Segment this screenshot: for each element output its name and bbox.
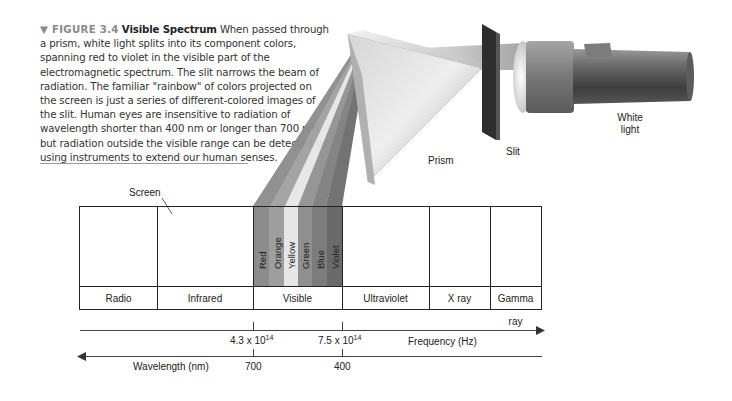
wavelength-tick-label: 700 — [245, 361, 262, 372]
stripe-yellow: Yellow — [284, 207, 298, 286]
frequency-tick — [253, 322, 254, 330]
band-gamma-ray: Gamma ray — [490, 287, 541, 310]
band-ultraviolet: Ultraviolet — [342, 287, 429, 310]
prism-illustration — [0, 0, 732, 401]
white-light-label: White light — [610, 112, 650, 136]
flashlight — [513, 41, 694, 113]
wavelength-tick — [342, 349, 343, 356]
screen-label: Screen — [129, 187, 161, 198]
stripe-violet: Violet — [327, 207, 342, 286]
frequency-tick-label: 7.5 x 1014 — [318, 334, 361, 346]
spectrum-table: Red Orange Yellow Green Blue Violet Radi… — [79, 206, 542, 310]
prism-label: Prism — [428, 155, 454, 166]
band-x-ray: X ray — [429, 287, 490, 310]
frequency-axis — [80, 330, 540, 331]
band-infrared: Infrared — [157, 287, 253, 310]
band-radio: Radio — [80, 287, 157, 310]
frequency-axis-label: Frequency (Hz) — [408, 336, 477, 347]
stripe-green: Green — [298, 207, 312, 286]
wavelength-arrow-icon — [77, 352, 87, 361]
band-visible: Visible — [253, 287, 342, 310]
slit — [482, 24, 496, 140]
stripe-orange: Orange — [269, 207, 284, 286]
wavelength-axis — [82, 356, 542, 357]
frequency-tick-label: 4.3 x 1014 — [230, 334, 273, 346]
wavelength-tick — [253, 349, 254, 356]
frequency-arrow-icon — [536, 326, 546, 335]
dispersed-light-fan — [253, 53, 366, 206]
stripe-blue: Blue — [312, 207, 327, 286]
frequency-tick — [342, 322, 343, 330]
wavelength-axis-label: Wavelength (nm) — [133, 361, 209, 372]
wavelength-tick-label: 400 — [334, 361, 351, 372]
slit-label: Slit — [506, 146, 520, 157]
stripe-red: Red — [254, 207, 269, 286]
